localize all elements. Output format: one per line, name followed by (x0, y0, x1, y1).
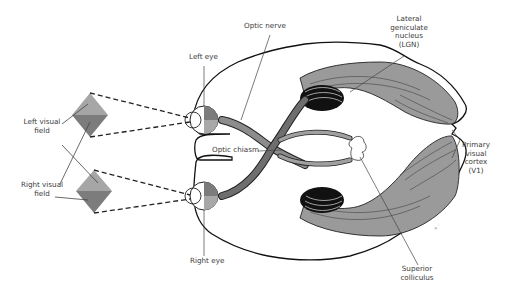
label-left-visual-field-line2: field (18, 127, 66, 136)
right-visual-field-diamond (76, 170, 112, 213)
lgn-lower (300, 187, 344, 213)
label-left-eye: Left eye (189, 53, 218, 62)
label-lgn: Lateral geniculate nucleus (LGN) (384, 15, 434, 49)
label-lgn-line4: (LGN) (384, 41, 434, 50)
label-right-eye: Right eye (190, 257, 224, 266)
label-superior-colliculus: Superior colliculus (392, 265, 442, 282)
label-v1-line4: (V1) (456, 167, 496, 176)
label-right-visual-field-line2: field (16, 190, 68, 199)
superior-colliculus (349, 136, 366, 160)
label-superior-colliculus-line2: colliculus (392, 274, 442, 283)
artist-signature: © ... (433, 222, 440, 230)
left-visual-field-diamond (72, 93, 108, 137)
label-optic-chiasm: Optic chiasm (212, 146, 259, 155)
label-primary-visual-cortex: Primary visual cortex (V1) (456, 141, 496, 175)
label-optic-nerve: Optic nerve (244, 22, 286, 31)
label-left-visual-field: Left visual field (18, 118, 66, 135)
left-eye (185, 106, 218, 134)
label-right-visual-field: Right visual field (16, 181, 68, 198)
right-eye (185, 182, 218, 210)
